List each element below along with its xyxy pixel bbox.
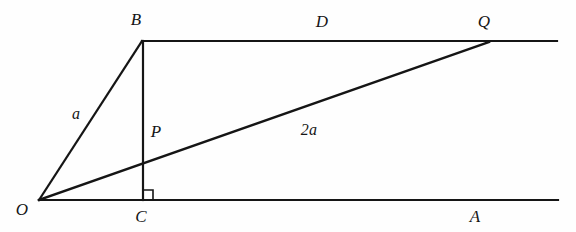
- segment-OQ: [39, 42, 489, 200]
- point-label-B: B: [131, 11, 142, 28]
- diagram-canvas: [0, 0, 576, 232]
- point-label-D: D: [316, 13, 328, 30]
- point-label-C: C: [135, 208, 147, 225]
- point-label-Q: Q: [478, 13, 490, 30]
- point-label-O: O: [16, 201, 28, 218]
- segment-OB: [39, 41, 142, 200]
- length-label-a: a: [72, 106, 80, 122]
- point-label-A: A: [470, 208, 481, 225]
- length-label-two-a: 2a: [301, 122, 317, 138]
- point-label-P: P: [151, 123, 162, 140]
- right-angle-marker-at-C: [143, 190, 153, 200]
- geometry-figure: O C A B D Q P a 2a: [0, 0, 576, 232]
